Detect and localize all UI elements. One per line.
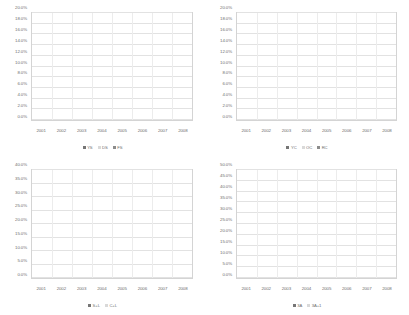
bar-slot bbox=[112, 169, 132, 279]
y-axis-tick-label: 15.0% bbox=[15, 230, 27, 235]
y-axis-tick-label: 10.0% bbox=[220, 59, 232, 64]
x-axis-tick-label: 2006 bbox=[337, 126, 357, 135]
bar-slot bbox=[296, 12, 316, 121]
y-axis-tick-label: 16.0% bbox=[220, 26, 232, 31]
x-axis-tick-label: 2006 bbox=[132, 284, 152, 293]
chart-legend: 3A3A+1 bbox=[205, 303, 409, 308]
legend-label: C+L bbox=[109, 303, 117, 308]
bar-slot bbox=[337, 12, 357, 121]
y-axis-tick-label: 16.0% bbox=[15, 26, 27, 31]
y-axis-tick-label: 10.0% bbox=[15, 244, 27, 249]
bar-slot bbox=[256, 169, 276, 279]
chart-panel-top-left: 0.0%2.0%4.0%6.0%8.0%10.0%12.0%14.0%16.0%… bbox=[0, 0, 205, 157]
y-axis-tick-label: 8.0% bbox=[17, 70, 27, 75]
y-axis-tick-label: 20.0% bbox=[220, 5, 232, 10]
y-axis-tick-label: 2.0% bbox=[17, 103, 27, 108]
chart-panel-bottom-right: 0.0%5.0%10.0%15.0%20.0%25.0%30.0%35.0%40… bbox=[205, 157, 409, 315]
x-axis-tick-label: 2005 bbox=[112, 284, 132, 293]
y-axis-tick-label: 6.0% bbox=[222, 81, 232, 86]
bar-slot bbox=[337, 169, 357, 279]
bar-slot bbox=[92, 169, 112, 279]
y-axis-tick-label: 15.0% bbox=[220, 239, 232, 244]
bar-series-container bbox=[31, 169, 193, 279]
bar-slot bbox=[377, 12, 397, 121]
x-axis-tick-label: 2005 bbox=[317, 126, 337, 135]
bar-slot bbox=[236, 12, 256, 121]
x-axis-tick-label: 2003 bbox=[276, 126, 296, 135]
y-axis-tick-label: 35.0% bbox=[15, 175, 27, 180]
y-axis-tick-label: 14.0% bbox=[220, 37, 232, 42]
bar-slot bbox=[276, 169, 296, 279]
y-axis-tick-label: 12.0% bbox=[15, 48, 27, 53]
y-axis-tick-label: 18.0% bbox=[15, 15, 27, 20]
y-axis-tick-label: 12.0% bbox=[220, 48, 232, 53]
legend-item[interactable]: YC bbox=[286, 145, 296, 150]
legend-swatch-icon bbox=[113, 146, 116, 149]
legend-item[interactable]: FS bbox=[113, 145, 123, 150]
y-axis-tick-label: 25.0% bbox=[220, 217, 232, 222]
legend-swatch-icon bbox=[293, 304, 296, 307]
legend-label: 3A+1 bbox=[312, 303, 322, 308]
legend-item[interactable]: OC bbox=[302, 145, 313, 150]
y-axis-tick-label: 30.0% bbox=[220, 206, 232, 211]
x-axis-tick-label: 2008 bbox=[377, 126, 397, 135]
x-axis-tick-label: 2007 bbox=[153, 284, 173, 293]
x-axis-tick-label: 2008 bbox=[377, 284, 397, 293]
bar-series-container bbox=[31, 12, 193, 121]
y-axis-tick-label: 2.0% bbox=[222, 103, 232, 108]
x-axis-tick-label: 2002 bbox=[51, 284, 71, 293]
legend-item[interactable]: DS bbox=[98, 145, 108, 150]
x-axis-labels: 20012002200320042005200620072008 bbox=[31, 284, 193, 293]
y-axis-tick-label: 45.0% bbox=[220, 173, 232, 178]
legend-swatch-icon bbox=[302, 146, 305, 149]
bar-slot bbox=[112, 12, 132, 121]
bar-slot bbox=[31, 12, 51, 121]
legend-swatch-icon bbox=[105, 304, 108, 307]
chart-panel-bottom-left: 0.0%5.0%10.0%15.0%20.0%25.0%30.0%35.0%40… bbox=[0, 157, 205, 315]
legend-label: YS bbox=[87, 145, 92, 150]
x-axis-tick-label: 2004 bbox=[296, 284, 316, 293]
y-axis-tick-label: 6.0% bbox=[17, 81, 27, 86]
x-axis-tick-label: 2007 bbox=[153, 126, 173, 135]
chart-legend: S+LC+L bbox=[0, 303, 205, 308]
x-axis-tick-label: 2008 bbox=[173, 126, 193, 135]
x-axis-tick-label: 2001 bbox=[31, 126, 51, 135]
chart-panel-top-right: 0.0%2.0%4.0%6.0%8.0%10.0%12.0%14.0%16.0%… bbox=[205, 0, 409, 157]
legend-label: YC bbox=[291, 145, 297, 150]
y-axis-tick-label: 0.0% bbox=[17, 114, 27, 119]
x-axis-tick-label: 2006 bbox=[337, 284, 357, 293]
legend-item[interactable]: 3A bbox=[293, 303, 302, 308]
legend-item[interactable]: C+L bbox=[105, 303, 117, 308]
y-axis-tick-label: 50.0% bbox=[220, 162, 232, 167]
legend-label: RC bbox=[322, 145, 328, 150]
legend-item[interactable]: RC bbox=[317, 145, 327, 150]
chart-legend: YCOCRC bbox=[205, 145, 409, 150]
bar-slot bbox=[296, 169, 316, 279]
x-axis-tick-label: 2001 bbox=[31, 284, 51, 293]
bar-slot bbox=[51, 12, 71, 121]
legend-swatch-icon bbox=[286, 146, 289, 149]
bar-series-container bbox=[236, 169, 397, 279]
y-axis-tick-label: 10.0% bbox=[15, 59, 27, 64]
legend-item[interactable]: YS bbox=[83, 145, 93, 150]
x-axis-labels: 20012002200320042005200620072008 bbox=[236, 126, 397, 135]
legend-item[interactable]: 3A+1 bbox=[307, 303, 321, 308]
y-axis-tick-label: 5.0% bbox=[222, 261, 232, 266]
x-axis-tick-label: 2003 bbox=[72, 126, 92, 135]
y-axis-tick-label: 14.0% bbox=[15, 37, 27, 42]
y-axis-tick-label: 0.0% bbox=[222, 272, 232, 277]
y-axis-tick-label: 10.0% bbox=[220, 250, 232, 255]
y-axis-tick-label: 40.0% bbox=[220, 184, 232, 189]
x-axis-tick-label: 2008 bbox=[173, 284, 193, 293]
x-axis-labels: 20012002200320042005200620072008 bbox=[236, 284, 397, 293]
y-axis-tick-label: 18.0% bbox=[220, 15, 232, 20]
legend-item[interactable]: S+L bbox=[88, 303, 100, 308]
x-axis-tick-label: 2007 bbox=[357, 126, 377, 135]
legend-swatch-icon bbox=[317, 146, 320, 149]
bar-slot bbox=[317, 12, 337, 121]
y-axis-tick-label: 25.0% bbox=[15, 203, 27, 208]
bar-slot bbox=[51, 169, 71, 279]
x-axis-tick-label: 2004 bbox=[92, 284, 112, 293]
bar-slot bbox=[132, 12, 152, 121]
y-axis-tick-label: 4.0% bbox=[17, 92, 27, 97]
